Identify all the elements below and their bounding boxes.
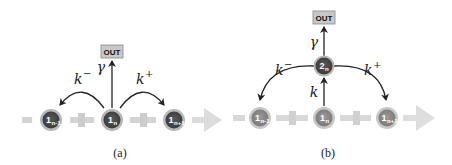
caption-b: (b) xyxy=(321,146,335,160)
k-minus-base: k xyxy=(74,71,82,87)
node-1-n-minus-1: 1 n-1 xyxy=(40,109,62,131)
node-1-n-plus-1: 1 n+1 xyxy=(163,109,185,131)
panel-b: OUT γ k k − k + 2 n 1 n-1 1 n xyxy=(233,11,435,160)
k-label: k xyxy=(310,84,318,100)
out-label: OUT xyxy=(104,48,121,57)
node-main-label: 1 xyxy=(320,113,325,123)
out-box: OUT xyxy=(313,11,335,24)
k-minus-sup: − xyxy=(284,59,292,70)
diagram-canvas: OUT γ k − k + 1 n-1 1 n 1 n+1 (a xyxy=(0,0,452,165)
node-main-label: 1 xyxy=(255,113,260,123)
k-minus-arrow xyxy=(60,92,104,108)
k-plus-base: k xyxy=(136,71,144,87)
node-1-n: 1 n xyxy=(313,107,335,129)
node-2-n: 2 n xyxy=(314,56,335,77)
node-main-label: 1 xyxy=(382,113,387,123)
k-minus-sup: − xyxy=(83,68,91,79)
out-label: OUT xyxy=(316,14,333,23)
node-sub-label: n+1 xyxy=(174,120,185,126)
node-main-label: 2 xyxy=(320,61,325,71)
k-plus-sup: + xyxy=(145,68,153,79)
track-arrowhead-icon xyxy=(204,108,222,132)
node-sub-label: n-1 xyxy=(52,120,62,126)
node-main-label: 1 xyxy=(46,115,51,125)
track-arrowhead-icon xyxy=(416,105,435,131)
node-sub-label: n xyxy=(325,66,329,72)
k-plus-sup: + xyxy=(373,59,381,70)
node-main-label: 1 xyxy=(169,115,174,125)
panel-a: OUT γ k − k + 1 n-1 1 n 1 n+1 (a xyxy=(22,45,222,160)
caption-a: (a) xyxy=(113,146,126,160)
node-sub-label: n xyxy=(114,120,118,126)
out-box: OUT xyxy=(101,45,123,58)
k-plus-label: k + xyxy=(136,68,153,87)
k-plus-arrow xyxy=(120,92,164,108)
gamma-label: γ xyxy=(97,59,106,75)
node-1-n: 1 n xyxy=(101,109,123,131)
k-minus-arrow xyxy=(260,66,314,100)
node-1-n-minus-1: 1 n-1 xyxy=(249,107,271,129)
k-minus-label: k − xyxy=(275,59,292,78)
k-minus-base: k xyxy=(275,62,283,78)
k-plus-arrow xyxy=(334,66,386,100)
node-1-n-plus-1: 1 n+1 xyxy=(376,107,398,129)
k-plus-base: k xyxy=(364,62,372,78)
node-main-label: 1 xyxy=(108,115,113,125)
k-minus-label: k − xyxy=(74,68,91,87)
gamma-label: γ xyxy=(310,34,319,50)
node-sub-label: n-1 xyxy=(261,118,271,124)
node-sub-label: n+1 xyxy=(387,118,398,124)
node-sub-label: n xyxy=(326,118,330,124)
